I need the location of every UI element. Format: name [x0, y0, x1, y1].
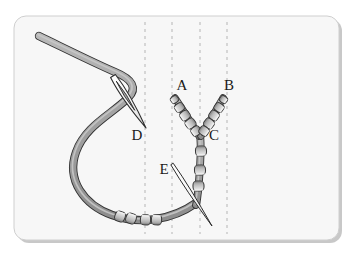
bead [194, 165, 205, 175]
label-c: C [209, 127, 219, 143]
bead [193, 181, 204, 191]
label-d: D [132, 127, 143, 143]
beaded-stitch-diagram: ABCDE [0, 0, 353, 255]
bead [140, 215, 151, 226]
diagram-root: ABCDE [0, 0, 353, 255]
bead [195, 146, 206, 156]
label-a: A [177, 77, 188, 93]
label-e: E [159, 161, 168, 177]
bead [151, 215, 162, 226]
label-b: B [224, 77, 234, 93]
